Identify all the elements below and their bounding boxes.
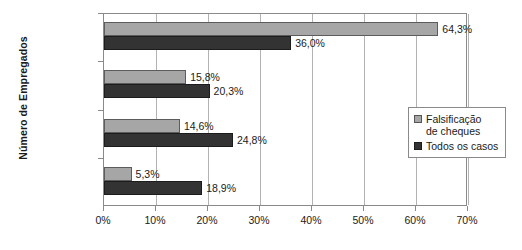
x-axis-tick-label: 40% <box>288 214 334 226</box>
legend-label: Todos os casos <box>426 140 498 152</box>
x-axis-tick-label: 70% <box>444 214 490 226</box>
x-axis-tick <box>155 206 156 211</box>
legend-item-falsificacao-de-cheques: Falsificação de cheques <box>414 113 501 137</box>
chart-legend: Falsificação de cheques Todos os casos <box>408 107 506 158</box>
bar-value-label: 14,6% <box>184 119 214 133</box>
x-axis-tick <box>311 206 312 211</box>
bar <box>104 84 210 98</box>
x-axis-tick-label: 60% <box>392 214 438 226</box>
bar <box>104 167 132 181</box>
x-axis-tick-label: 20% <box>184 214 230 226</box>
y-axis-tick <box>98 13 103 14</box>
bar <box>104 70 186 84</box>
x-axis-tick-label: 10% <box>132 214 178 226</box>
bar-value-label: 5,3% <box>136 167 160 181</box>
x-axis-tick <box>103 206 104 211</box>
bar-value-label: 15,8% <box>190 70 220 84</box>
x-axis-tick <box>363 206 364 211</box>
bar-group: 5,3%18,9% <box>104 159 466 207</box>
y-axis-title: Número de Empregados <box>17 13 29 183</box>
x-axis-tick-label: 0% <box>80 214 126 226</box>
bar <box>104 22 438 36</box>
x-axis-tick <box>207 206 208 211</box>
bar <box>104 36 291 50</box>
bar-group: 15,8%20,3% <box>104 62 466 110</box>
bar-group: 64,3%36,0% <box>104 14 466 62</box>
legend-swatch-icon-series-1 <box>414 142 422 150</box>
x-axis-tick-label: 50% <box>340 214 386 226</box>
bar-value-label: 24,8% <box>237 133 267 147</box>
bar <box>104 133 233 147</box>
bar-value-label: 20,3% <box>214 84 244 98</box>
legend-label: Falsificação de cheques <box>426 113 481 137</box>
legend-swatch-icon-series-0 <box>414 115 422 123</box>
x-axis-tick <box>415 206 416 211</box>
bar-value-label: 64,3% <box>442 22 472 36</box>
y-axis-tick <box>98 158 103 159</box>
x-axis-tick <box>259 206 260 211</box>
bar-value-label: 36,0% <box>295 36 325 50</box>
bar <box>104 181 202 195</box>
bar-chart: Número de Empregados 64,3%36,0%15,8%20,3… <box>0 0 522 250</box>
y-axis-tick <box>98 61 103 62</box>
y-axis-tick <box>98 110 103 111</box>
x-axis-tick-label: 30% <box>236 214 282 226</box>
bar <box>104 119 180 133</box>
legend-item-todos-os-casos: Todos os casos <box>414 140 501 152</box>
bar-value-label: 18,9% <box>206 181 236 195</box>
x-axis-tick <box>467 206 468 211</box>
